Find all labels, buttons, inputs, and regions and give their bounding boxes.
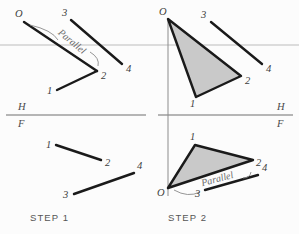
technical-drawing-canvas: O 1 2 3 4 Parallel H F 1 2 3 4 STEP 1 O … [0, 0, 299, 234]
f-label-left: F [17, 118, 25, 129]
point-label-O-front-right: O [157, 187, 165, 198]
segment-1-2-top-left [57, 71, 97, 90]
point-label-1-front-left: 1 [46, 139, 51, 150]
point-label-4-top-left: 4 [126, 63, 132, 74]
point-label-4-top-right: 4 [266, 63, 272, 74]
parallel-leader-arc-left-a [30, 25, 58, 40]
h-label-left: H [17, 101, 27, 112]
point-label-1-top-right: 1 [190, 98, 195, 109]
point-label-3-top-right: 3 [200, 9, 206, 20]
shaded-triangle-top-right [168, 19, 241, 97]
segment-3-4-front-left [74, 173, 134, 194]
segment-1-2-front-left [56, 145, 101, 160]
caption-step-1: STEP 1 [30, 212, 69, 223]
point-label-1-top-left: 1 [47, 85, 52, 96]
point-label-2-front-left: 2 [105, 157, 111, 168]
figure-root: O 1 2 3 4 Parallel H F 1 2 3 4 STEP 1 O … [0, 0, 299, 234]
caption-step-2: STEP 2 [168, 212, 207, 223]
point-label-4-front-right: 4 [262, 162, 268, 173]
point-label-O-top-left: O [15, 8, 23, 19]
point-label-1-front-right: 1 [190, 131, 195, 142]
point-label-3-top-left: 3 [61, 7, 67, 18]
point-label-O-top-right: O [159, 6, 167, 17]
point-label-4-front-left: 4 [137, 160, 143, 171]
h-label-right: H [276, 101, 286, 112]
point-label-3-front-right: 3 [194, 188, 200, 199]
point-label-2-top-right: 2 [245, 75, 251, 86]
point-label-2-top-left: 2 [101, 70, 107, 81]
point-label-3-front-left: 3 [62, 189, 68, 200]
parallel-leader-arc-left-b [90, 52, 98, 66]
f-label-right: F [276, 118, 284, 129]
